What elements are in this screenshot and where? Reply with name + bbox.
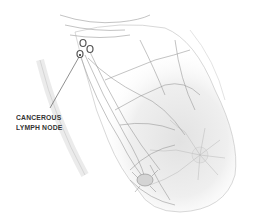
cancerous-lymph-node-label: CANCEROUS LYMPH NODE: [16, 113, 62, 133]
breast-lymphatic-illustration: [0, 0, 255, 223]
label-line-2: LYMPH NODE: [16, 123, 62, 133]
breast-outline: [75, 25, 236, 212]
label-line-1: CANCEROUS: [16, 113, 62, 123]
leader-line: [50, 57, 79, 108]
